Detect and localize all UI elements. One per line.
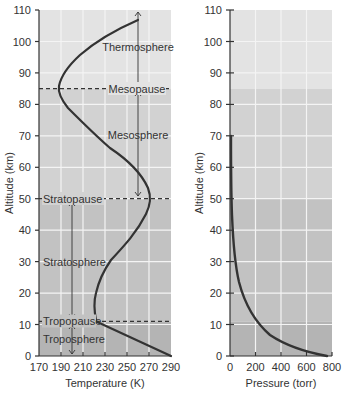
svg-text:20: 20 [210, 287, 222, 299]
svg-text:50: 50 [19, 193, 31, 205]
svg-text:0: 0 [216, 350, 222, 362]
svg-text:60: 60 [19, 161, 31, 173]
svg-text:10: 10 [210, 319, 222, 331]
label-thermosphere: Thermosphere [102, 41, 174, 53]
svg-text:30: 30 [19, 256, 31, 268]
y-tick-labels: 0 10 20 30 40 50 60 70 80 90 100 110 [13, 4, 31, 362]
temperature-chart: Thermosphere Mesopause Mesosphere Strato… [3, 4, 180, 389]
svg-text:80: 80 [19, 98, 31, 110]
svg-text:10: 10 [19, 319, 31, 331]
y-axis-title-altitude-left: Altitude (km) [3, 152, 15, 214]
svg-text:100: 100 [13, 36, 31, 48]
svg-text:40: 40 [19, 224, 31, 236]
svg-text:110: 110 [13, 4, 31, 16]
label-mesopause: Mesopause [109, 83, 166, 95]
svg-text:90: 90 [210, 67, 222, 79]
svg-text:400: 400 [272, 361, 290, 373]
svg-text:270: 270 [140, 361, 158, 373]
svg-text:210: 210 [74, 361, 92, 373]
x-axis-title-temperature: Temperature (K) [65, 377, 144, 389]
x-axis-title-pressure: Pressure (torr) [246, 377, 317, 389]
svg-text:170: 170 [30, 361, 48, 373]
svg-text:70: 70 [19, 130, 31, 142]
atmosphere-figure: Thermosphere Mesopause Mesosphere Strato… [0, 0, 342, 394]
svg-text:110: 110 [204, 4, 222, 16]
svg-text:600: 600 [297, 361, 315, 373]
label-tropopause: Tropopause [43, 315, 101, 327]
svg-text:230: 230 [96, 361, 114, 373]
label-stratosphere: Stratosphere [43, 256, 106, 268]
svg-text:290: 290 [162, 361, 180, 373]
pressure-chart: 0 10 20 30 40 50 60 70 80 90 100 110 0 2… [193, 4, 341, 389]
svg-text:0: 0 [227, 361, 233, 373]
svg-text:80: 80 [210, 98, 222, 110]
label-troposphere: Troposphere [43, 333, 105, 345]
svg-text:20: 20 [19, 287, 31, 299]
svg-text:40: 40 [210, 224, 222, 236]
svg-text:60: 60 [210, 161, 222, 173]
svg-text:800: 800 [323, 361, 341, 373]
label-mesosphere: Mesosphere [108, 129, 169, 141]
svg-text:200: 200 [246, 361, 264, 373]
x-tick-labels: 170 190 210 230 250 270 290 [30, 361, 180, 373]
svg-text:50: 50 [210, 193, 222, 205]
svg-text:90: 90 [19, 67, 31, 79]
svg-text:70: 70 [210, 130, 222, 142]
y-axis-title-altitude-right: Altitude (km) [193, 152, 205, 214]
y-tick-labels-right: 0 10 20 30 40 50 60 70 80 90 100 110 [204, 4, 222, 362]
svg-text:190: 190 [52, 361, 70, 373]
svg-text:30: 30 [210, 256, 222, 268]
x-tick-labels-right: 0 200 400 600 800 [227, 361, 341, 373]
svg-text:100: 100 [204, 36, 222, 48]
svg-text:250: 250 [118, 361, 136, 373]
label-stratopause: Stratopause [43, 193, 102, 205]
